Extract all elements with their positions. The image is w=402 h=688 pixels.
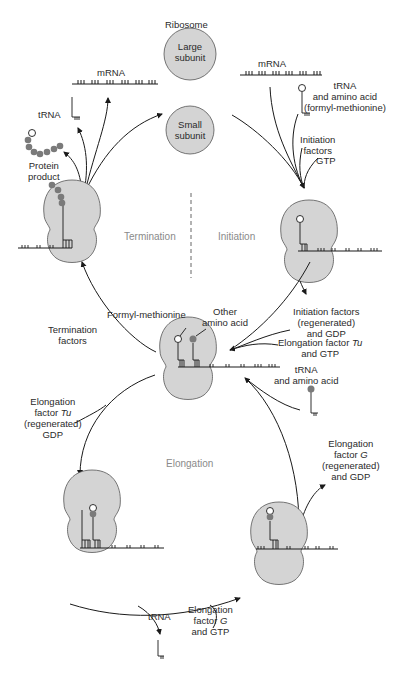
trna-released-top: [72, 97, 80, 120]
mrna-label-left: mRNA: [97, 67, 125, 78]
trna-released-bottom: [158, 640, 164, 659]
initiation-factors-regenerated-label: Initiation factors(regenerated)and GDP: [293, 306, 360, 339]
ribosome-initiation: [281, 200, 338, 283]
phase-termination: Termination: [124, 231, 176, 242]
phase-initiation: Initiation: [218, 231, 255, 242]
ef-tu-regenerated-label: Elongationfactor Tu(regenerated)GDP: [24, 396, 82, 440]
phase-elongation: Elongation: [166, 458, 213, 469]
formyl-methionine-label: Formyl-methionine: [107, 309, 186, 320]
protein-product-label: Proteinproduct: [28, 160, 60, 182]
trna-aa-label: tRNAand amino acid: [274, 364, 338, 386]
large-subunit-label: Largesubunit: [172, 41, 208, 63]
ribosome-termination: [44, 180, 101, 263]
ef-g-gtp-label: Elongationfactor Gand GTP: [188, 604, 233, 637]
trna-fmet-label: tRNAand amino acid(formyl-methionine): [304, 80, 386, 113]
ef-tu-gtp-label: Elongation factor Tuand GTP: [278, 337, 362, 359]
termination-release-arrows: [64, 98, 162, 192]
ef-g-regenerated-label: Elongationfactor G(regenerated)and GDP: [322, 438, 380, 482]
trna-aa-right: [311, 392, 318, 416]
initiation-factors-label: Initiationfactors: [300, 134, 335, 156]
ribosome-elongation-center: [160, 317, 217, 400]
protein-product-chain: [25, 130, 64, 158]
trna-label-left: tRNA: [38, 109, 61, 120]
gtp-label: GTP: [316, 155, 336, 166]
small-subunit-label: Smallsubunit: [172, 119, 208, 141]
other-amino-acid-label: Otheramino acid: [202, 306, 248, 328]
mrna-strand-top-right: [240, 71, 322, 75]
trna-bottom-label: tRNA: [148, 611, 171, 622]
mrna-label-right: mRNA: [258, 58, 286, 69]
termination-factors-label: Terminationfactors: [48, 324, 97, 346]
mrna-strand-top-left: [72, 80, 158, 84]
ribosome-label: Ribosome: [165, 19, 208, 30]
ribosome-elongation-right: [251, 502, 308, 585]
